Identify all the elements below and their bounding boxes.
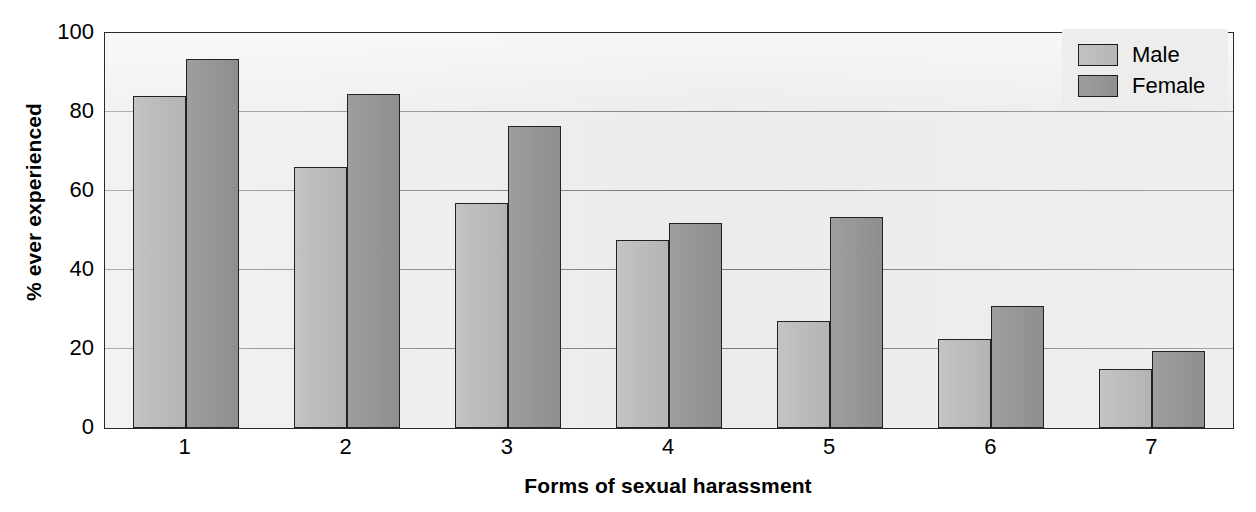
y-axis-tick: 80 (34, 100, 94, 122)
legend-swatch-male-icon (1078, 44, 1118, 66)
x-axis-tick: 2 (316, 436, 376, 458)
bar-male-group-1 (133, 96, 186, 428)
x-axis-tick: 7 (1121, 436, 1181, 458)
legend-swatch-female-icon (1078, 75, 1118, 97)
x-axis-tick: 6 (960, 436, 1020, 458)
x-axis-tick: 5 (799, 436, 859, 458)
y-axis-tick: 20 (34, 337, 94, 359)
bar-female-group-3 (508, 126, 561, 428)
bar-male-group-3 (455, 203, 508, 428)
y-axis-tick: 100 (34, 21, 94, 43)
x-axis-tick-labels: 1234567 (104, 436, 1232, 472)
bar-female-group-7 (1152, 351, 1205, 428)
y-axis-tick: 40 (34, 258, 94, 280)
bar-male-group-6 (938, 339, 991, 428)
bar-chart-figure: % ever experienced 020406080100 1234567 … (0, 0, 1256, 512)
bar-female-group-5 (830, 217, 883, 428)
x-axis-label: Forms of sexual harassment (104, 474, 1232, 498)
bar-female-group-1 (186, 59, 239, 428)
x-axis-tick: 1 (155, 436, 215, 458)
x-axis-tick: 3 (477, 436, 537, 458)
y-axis-tick-labels: 020406080100 (24, 0, 94, 512)
bar-male-group-7 (1099, 369, 1152, 428)
x-axis-tick: 4 (638, 436, 698, 458)
bar-male-group-2 (294, 167, 347, 428)
legend-item-female: Female (1078, 75, 1228, 97)
y-axis-tick: 60 (34, 179, 94, 201)
bar-female-group-4 (669, 223, 722, 428)
y-axis-tick: 0 (34, 416, 94, 438)
legend-item-male: Male (1078, 44, 1228, 66)
bar-female-group-2 (347, 94, 400, 428)
bar-male-group-4 (616, 240, 669, 428)
chart-legend: Male Female (1062, 29, 1228, 111)
legend-label-female: Female (1132, 75, 1205, 97)
legend-label-male: Male (1132, 44, 1180, 66)
bar-female-group-6 (991, 306, 1044, 428)
bar-male-group-5 (777, 321, 830, 428)
